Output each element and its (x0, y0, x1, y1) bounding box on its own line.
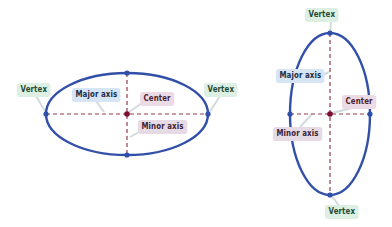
co-vertex-point-right (367, 111, 372, 116)
diagram-graphics (0, 0, 392, 227)
label-vertex-bottom: Vertex (325, 205, 359, 219)
label-vertex-top: Vertex (305, 8, 339, 22)
vertex-point-top (327, 30, 332, 35)
label-minor-axis-h: Minor axis (138, 120, 187, 134)
label-center-v: Center (342, 95, 376, 109)
vertical-ellipse (287, 30, 372, 197)
leader-vertex-right (209, 96, 220, 113)
vertex-point-bottom (327, 192, 332, 197)
vertex-point-right (205, 111, 210, 116)
label-minor-axis-v: Minor axis (273, 127, 322, 141)
co-vertex-point-top (124, 70, 129, 75)
co-vertex-point-left (287, 111, 292, 116)
label-center-h: Center (140, 92, 174, 106)
leader-vertex-left (36, 96, 46, 113)
co-vertex-point-bottom (124, 152, 129, 157)
label-vertex-right: Vertex (204, 83, 238, 97)
ellipse-diagram: Vertex Major axis Center Minor axis Vert… (0, 0, 392, 227)
leader-major-axis-h (96, 101, 104, 112)
center-point (124, 111, 130, 117)
horizontal-ellipse (43, 70, 210, 157)
center-point (327, 111, 333, 117)
vertex-point-left (43, 111, 48, 116)
leader-minor-axis-v (300, 114, 312, 127)
label-vertex-left: Vertex (17, 83, 51, 97)
label-major-axis-h: Major axis (72, 88, 121, 102)
label-major-axis-v: Major axis (276, 69, 325, 83)
